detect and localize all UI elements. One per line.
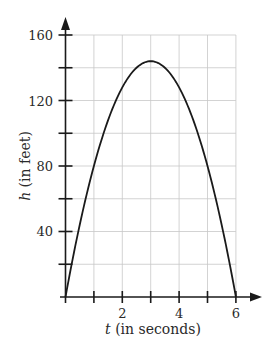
x-tick-label: 6: [232, 306, 240, 321]
chart: 2 4 6 40 80 120 160 t (in seconds) h (in…: [0, 0, 263, 357]
x-axis-label: t (in seconds): [105, 321, 201, 337]
axes: [60, 17, 262, 302]
y-tick-label: 40: [36, 224, 53, 239]
ticks: [59, 35, 236, 303]
y-tick-label: 80: [36, 159, 53, 174]
x-tick-label: 2: [118, 306, 126, 321]
y-axis-label: h (in feet): [17, 131, 33, 201]
y-tick-label: 160: [28, 28, 53, 43]
x-tick-label: 4: [175, 306, 183, 321]
grid: [66, 35, 236, 297]
x-axis-arrow-icon: [250, 293, 262, 302]
x-tick-labels: 2 4 6: [118, 306, 240, 321]
y-tick-label: 120: [28, 94, 53, 109]
y-axis-arrow-icon: [61, 17, 70, 30]
